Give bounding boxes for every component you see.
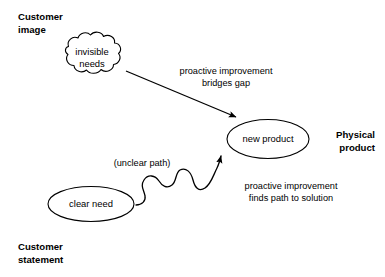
- zone-label-customer-image: Customer image: [18, 10, 63, 36]
- diagram-canvas: Customer image Physical product Customer…: [0, 0, 385, 277]
- node-label-clear-need: clear need: [51, 198, 131, 210]
- node-label-invisible-needs-line1: invisible: [57, 46, 127, 58]
- edge-label-bridges-gap-line1: proactive improvement: [156, 65, 296, 77]
- edge-label-finds-path-line2: finds path to solution: [216, 192, 366, 204]
- zone-label-physical-product: Physical product: [315, 128, 375, 154]
- annotation-unclear-path: (unclear path): [92, 157, 192, 169]
- edge-label-finds-path-line1: proactive improvement: [216, 180, 366, 192]
- node-label-invisible-needs-line2: needs: [57, 58, 127, 70]
- zone-label-customer-statement: Customer statement: [18, 240, 63, 266]
- edge-label-bridges-gap-line2: bridges gap: [156, 77, 296, 89]
- node-label-new-product: new product: [228, 133, 308, 145]
